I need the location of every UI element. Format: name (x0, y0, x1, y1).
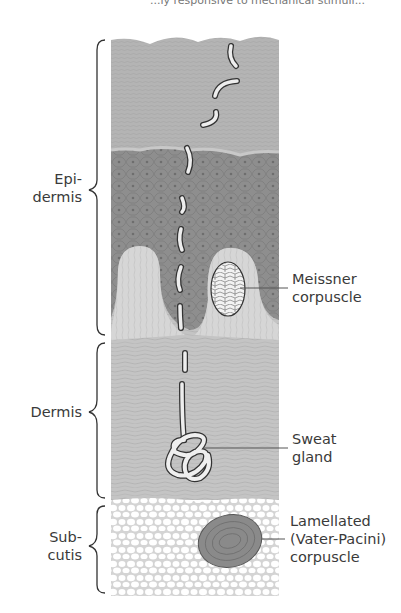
sweat-gland-label: Sweat gland (292, 430, 337, 466)
epidermis-brace (89, 40, 105, 335)
subcutis-brace (89, 506, 105, 593)
meissner-corpuscle (211, 262, 245, 316)
meissner-corpuscle-label: Meissner corpuscle (292, 270, 362, 306)
dermis-brace (89, 343, 105, 498)
dermis-label: Dermis (10, 403, 82, 421)
subcutis-label: Sub- cutis (20, 528, 82, 564)
epidermis-label: Epi- dermis (20, 170, 82, 206)
lamellated-corpuscle-label: Lamellated (Vater-Pacini) corpuscle (290, 512, 386, 566)
stratum-corneum (111, 37, 279, 155)
